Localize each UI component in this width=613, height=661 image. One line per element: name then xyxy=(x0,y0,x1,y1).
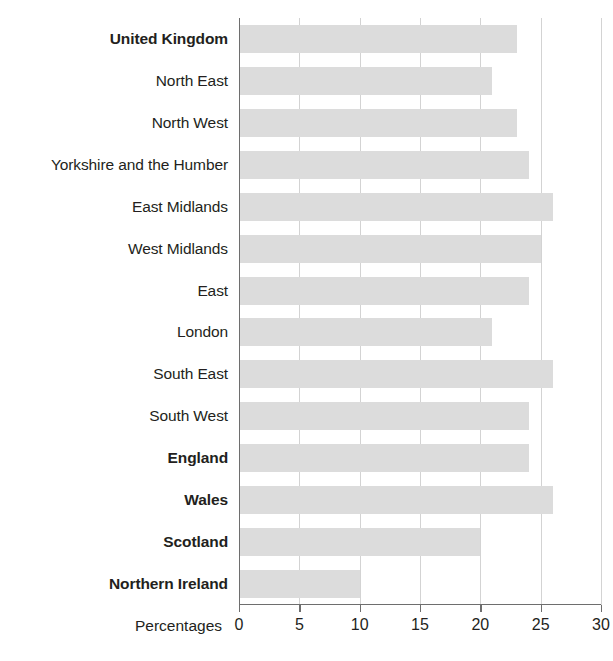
bar xyxy=(239,570,360,598)
gridline xyxy=(480,18,481,605)
category-label: East xyxy=(0,283,228,299)
gridline xyxy=(299,18,300,605)
category-label: Wales xyxy=(0,492,228,508)
category-label: Northern Ireland xyxy=(0,576,228,592)
x-axis-tick-mark xyxy=(601,605,602,612)
bar xyxy=(239,486,553,514)
category-label: Yorkshire and the Humber xyxy=(0,157,228,173)
x-axis-tick-mark xyxy=(299,605,300,612)
bar-chart: United KingdomNorth EastNorth WestYorksh… xyxy=(0,0,613,661)
x-axis-tick-label: 10 xyxy=(340,617,380,633)
gridline xyxy=(420,18,421,605)
x-axis-tick-mark xyxy=(420,605,421,612)
x-axis-tick-label: 15 xyxy=(400,617,440,633)
category-label: West Midlands xyxy=(0,241,228,257)
bar xyxy=(239,67,492,95)
category-label: South East xyxy=(0,366,228,382)
y-axis-line xyxy=(239,18,240,605)
x-axis-tick-label: 5 xyxy=(279,617,319,633)
category-label: United Kingdom xyxy=(0,31,228,47)
category-label: East Midlands xyxy=(0,199,228,215)
bar xyxy=(239,25,517,53)
bar xyxy=(239,109,517,137)
category-label: England xyxy=(0,450,228,466)
bar xyxy=(239,402,529,430)
x-axis-tick-mark xyxy=(239,605,240,612)
x-axis-tick-mark xyxy=(480,605,481,612)
bar xyxy=(239,151,529,179)
category-label: North East xyxy=(0,73,228,89)
gridline xyxy=(360,18,361,605)
x-axis-tick-label: 30 xyxy=(581,617,613,633)
bar xyxy=(239,235,541,263)
x-axis-tick-label: 25 xyxy=(521,617,561,633)
x-axis-tick-label: 0 xyxy=(219,617,259,633)
x-axis-tick-mark xyxy=(541,605,542,612)
category-label: London xyxy=(0,324,228,340)
bar xyxy=(239,318,492,346)
gridline xyxy=(541,18,542,605)
bar xyxy=(239,444,529,472)
gridline xyxy=(601,18,602,605)
category-label: Scotland xyxy=(0,534,228,550)
x-axis-tick-label: 20 xyxy=(460,617,500,633)
category-label: North West xyxy=(0,115,228,131)
bar xyxy=(239,193,553,221)
bar xyxy=(239,360,553,388)
plot-area xyxy=(239,18,601,605)
bar xyxy=(239,277,529,305)
category-label: South West xyxy=(0,408,228,424)
x-axis-title: Percentages xyxy=(0,618,222,634)
bar xyxy=(239,528,480,556)
category-label-column: United KingdomNorth EastNorth WestYorksh… xyxy=(0,0,228,605)
x-axis-tick-mark xyxy=(360,605,361,612)
